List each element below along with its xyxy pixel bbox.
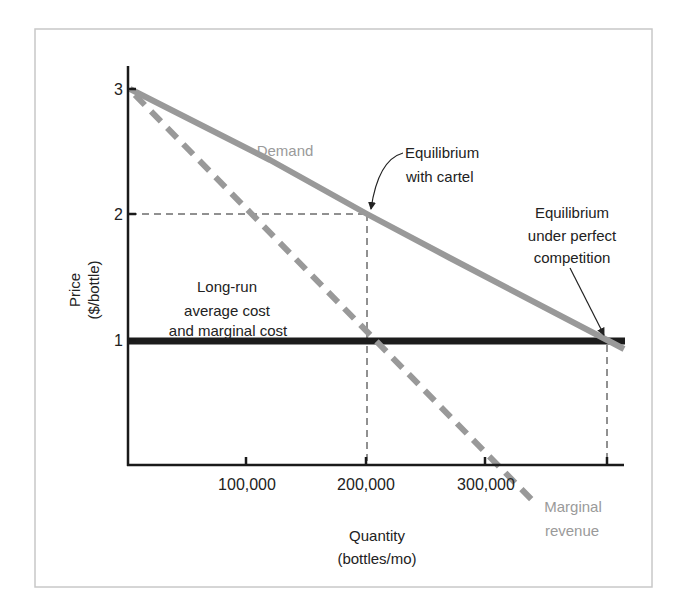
competition-equilibrium-annotation: Equilibrium under perfect competition: [528, 204, 617, 335]
x-tick-labels: 100,000 200,000 300,000: [218, 476, 515, 493]
competition-annotation-line3: competition: [534, 249, 611, 266]
cost-label-line3: and marginal cost: [169, 322, 288, 339]
x-axis-title-line2: (bottles/mo): [337, 550, 416, 567]
y-tick-labels: 3 2 1: [114, 81, 123, 349]
demand-label: Demand: [257, 142, 314, 159]
competition-annotation-line2: under perfect: [528, 227, 617, 244]
chart-canvas: 3 2 1 100,000 200,000 300,000 Price ($/b…: [0, 0, 673, 614]
competition-annotation-line1: Equilibrium: [535, 204, 609, 221]
y-axis-title-line1: Price: [66, 273, 83, 307]
cost-label-line1: Long-run: [197, 278, 257, 295]
marginal-revenue-label-line2: revenue: [545, 522, 599, 539]
cartel-annotation-line2: with cartel: [405, 168, 474, 185]
x-axis-title: Quantity (bottles/mo): [337, 527, 416, 567]
x-tick-label-300k: 300,000: [457, 476, 515, 493]
y-axis-title-line2: ($/bottle): [85, 260, 102, 319]
cartel-annotation-line1: Equilibrium: [405, 144, 479, 161]
y-axis-title: Price ($/bottle): [66, 260, 102, 319]
y-tick-label-3: 3: [114, 81, 123, 98]
economics-chart-figure: 3 2 1 100,000 200,000 300,000 Price ($/b…: [0, 0, 673, 614]
x-axis-title-line1: Quantity: [349, 527, 405, 544]
cartel-arrow-icon: [371, 153, 403, 209]
cost-label: Long-run average cost and marginal cost: [169, 278, 288, 339]
x-tick-label-200k: 200,000: [337, 476, 395, 493]
y-tick-label-1: 1: [114, 332, 123, 349]
y-tick-label-2: 2: [114, 206, 123, 223]
cost-label-line2: average cost: [184, 302, 271, 319]
marginal-revenue-label: Marginal revenue: [544, 498, 602, 539]
x-tick-label-100k: 100,000: [218, 476, 276, 493]
cartel-equilibrium-annotation: Equilibrium with cartel: [371, 144, 479, 209]
marginal-revenue-label-line1: Marginal: [544, 498, 602, 515]
